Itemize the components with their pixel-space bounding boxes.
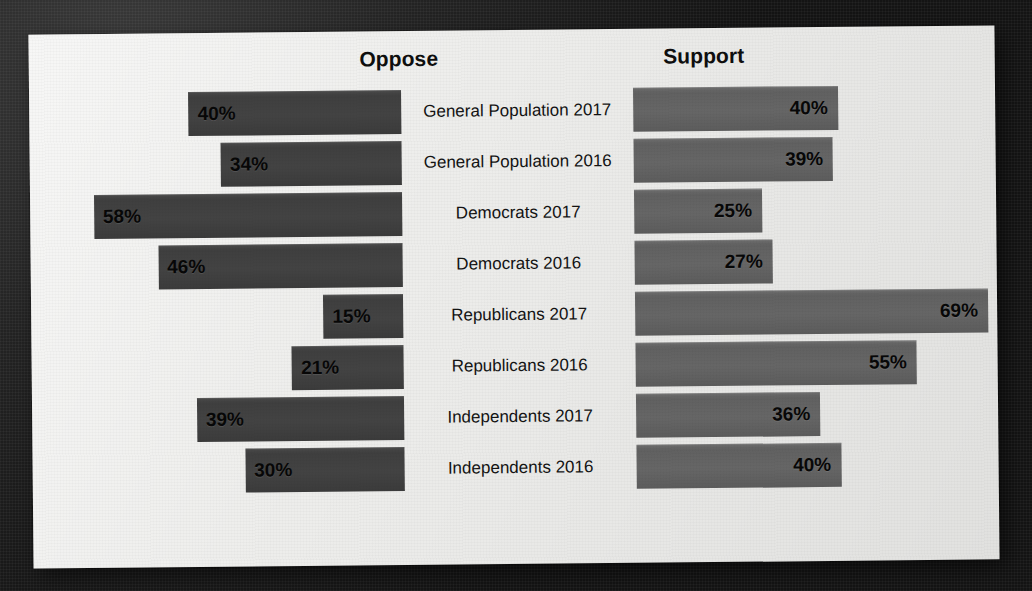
category-label: General Population 2017	[405, 84, 629, 137]
chart-rows: 40%General Population 201740%34%General …	[29, 80, 999, 497]
oppose-column-header: Oppose	[324, 46, 474, 71]
oppose-value-label: 34%	[230, 153, 268, 175]
oppose-track: 15%	[31, 294, 403, 342]
oppose-value-label: 21%	[301, 357, 339, 379]
support-bar: 25%	[634, 189, 762, 234]
oppose-value-label: 15%	[332, 305, 370, 327]
chart-row: 39%Independents 201736%	[32, 386, 998, 446]
category-label: Independents 2016	[408, 441, 632, 494]
support-bar: 36%	[636, 392, 821, 438]
support-value-label: 40%	[793, 454, 831, 476]
category-label: Democrats 2017	[406, 186, 630, 239]
oppose-value-label: 46%	[167, 256, 205, 278]
oppose-bar: 58%	[94, 192, 403, 239]
support-bar: 69%	[635, 288, 988, 335]
oppose-track: 58%	[30, 192, 402, 240]
chart-row: 58%Democrats 201725%	[30, 182, 996, 242]
chart-row: 34%General Population 201639%	[29, 131, 995, 191]
chart-row: 46%Democrats 201627%	[30, 233, 996, 293]
support-value-label: 39%	[785, 148, 823, 170]
oppose-bar: 40%	[188, 90, 401, 136]
oppose-value-label: 39%	[206, 409, 244, 431]
chart-row: 30%Independents 201640%	[32, 437, 998, 497]
oppose-bar: 34%	[221, 141, 402, 187]
support-column-header: Support	[629, 43, 779, 68]
support-bar: 55%	[635, 340, 917, 387]
oppose-track: 34%	[30, 141, 402, 189]
support-value-label: 36%	[772, 403, 810, 425]
oppose-track: 30%	[32, 447, 404, 495]
support-track: 69%	[635, 288, 993, 335]
category-label: Republicans 2016	[407, 339, 631, 392]
category-label: General Population 2016	[405, 135, 629, 188]
oppose-track: 21%	[31, 345, 403, 393]
chart-headers: Oppose Support	[29, 41, 995, 84]
chart-row: 40%General Population 201740%	[29, 80, 995, 140]
chart-panel: Oppose Support 40%General Population 201…	[28, 25, 999, 568]
oppose-track: 40%	[29, 90, 401, 138]
category-label: Independents 2017	[408, 390, 632, 443]
category-label: Democrats 2016	[406, 237, 630, 290]
support-track: 55%	[635, 339, 993, 386]
support-value-label: 55%	[869, 351, 907, 373]
oppose-value-label: 40%	[198, 103, 236, 125]
oppose-bar: 46%	[158, 243, 403, 289]
support-bar: 40%	[633, 86, 838, 132]
support-track: 40%	[636, 441, 994, 488]
support-value-label: 25%	[714, 200, 752, 222]
support-track: 27%	[634, 237, 992, 284]
support-track: 39%	[633, 135, 991, 182]
support-value-label: 27%	[725, 251, 763, 273]
oppose-bar: 21%	[292, 345, 404, 390]
support-value-label: 69%	[940, 300, 978, 322]
oppose-bar: 15%	[323, 294, 403, 339]
oppose-bar: 30%	[245, 447, 405, 493]
support-track: 40%	[633, 84, 991, 131]
support-bar: 27%	[634, 240, 772, 285]
chart-row: 15%Republicans 201769%	[31, 284, 997, 344]
support-bar: 40%	[636, 443, 841, 489]
oppose-track: 39%	[32, 396, 404, 444]
support-track: 25%	[634, 186, 992, 233]
oppose-bar: 39%	[197, 396, 405, 442]
chart-row: 21%Republicans 201655%	[31, 335, 997, 395]
support-track: 36%	[636, 390, 994, 437]
support-value-label: 40%	[790, 97, 828, 119]
oppose-value-label: 58%	[103, 206, 141, 228]
oppose-value-label: 30%	[254, 459, 292, 481]
category-label: Republicans 2017	[407, 288, 631, 341]
support-bar: 39%	[633, 137, 833, 183]
oppose-track: 46%	[30, 243, 402, 291]
